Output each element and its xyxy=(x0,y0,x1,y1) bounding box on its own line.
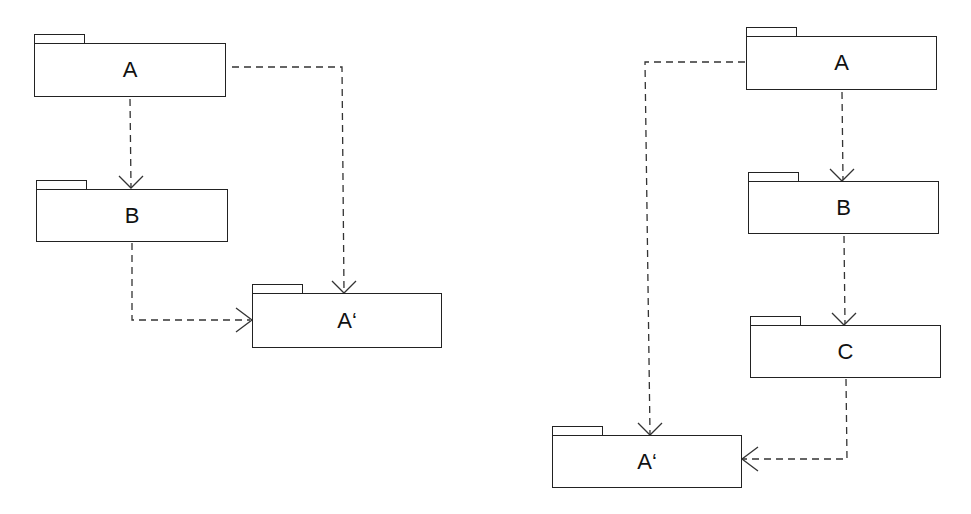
edge-left-b-to-aprime xyxy=(132,243,250,320)
package-body: B xyxy=(748,181,939,234)
package-label: A‘ xyxy=(637,449,657,475)
edge-left-a-to-b xyxy=(130,99,131,187)
package-body: A xyxy=(746,36,937,90)
edge-right-c-to-aprime xyxy=(743,379,847,459)
package-body: A‘ xyxy=(252,293,442,348)
package-label: C xyxy=(838,339,854,365)
package-label: A xyxy=(123,57,138,83)
package-body: C xyxy=(750,325,941,378)
edge-right-a-to-b xyxy=(842,92,843,180)
package-body: A‘ xyxy=(552,435,742,488)
package-body: B xyxy=(36,189,228,242)
package-label: B xyxy=(125,203,140,229)
package-label: A‘ xyxy=(337,308,357,334)
package-label: A xyxy=(834,50,849,76)
package-label: B xyxy=(836,195,851,221)
edge-left-a-to-aprime xyxy=(232,67,344,292)
arrowhead-icon xyxy=(832,313,856,325)
package-body: A xyxy=(34,43,226,97)
edge-right-b-to-c xyxy=(844,236,845,324)
arrowhead-icon xyxy=(830,169,854,181)
edge-right-a-to-aprime xyxy=(645,62,745,434)
